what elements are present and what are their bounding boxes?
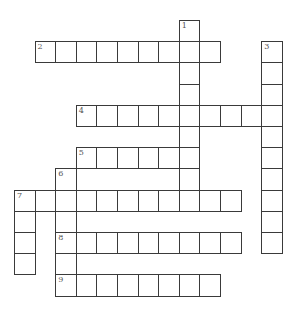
crossword-cell[interactable] [179, 41, 201, 63]
crossword-cell[interactable] [261, 147, 283, 169]
clue-number: 8 [58, 233, 63, 243]
crossword-cell[interactable] [138, 190, 160, 212]
crossword-cell[interactable] [76, 41, 98, 63]
crossword-cell[interactable]: 4 [76, 105, 98, 127]
crossword-cell[interactable] [117, 105, 139, 127]
crossword-cell[interactable] [117, 190, 139, 212]
crossword-cell[interactable] [220, 190, 242, 212]
crossword-cell[interactable] [199, 190, 221, 212]
crossword-cell[interactable] [14, 253, 36, 275]
crossword-cell[interactable] [76, 232, 98, 254]
crossword-cell[interactable] [179, 105, 201, 127]
crossword-cell[interactable] [179, 274, 201, 296]
crossword-cell[interactable]: 3 [261, 41, 283, 63]
crossword-cell[interactable]: 5 [76, 147, 98, 169]
crossword-cell[interactable] [55, 41, 77, 63]
crossword-cell[interactable] [261, 126, 283, 148]
crossword-cell[interactable] [261, 168, 283, 190]
clue-number: 7 [17, 191, 22, 201]
crossword-cell[interactable] [117, 41, 139, 63]
crossword-cell[interactable] [96, 147, 118, 169]
crossword-cell[interactable] [96, 105, 118, 127]
crossword-cell[interactable] [96, 232, 118, 254]
crossword-cell[interactable] [179, 232, 201, 254]
crossword-cell[interactable] [179, 126, 201, 148]
crossword-cell[interactable] [55, 211, 77, 233]
crossword-cell[interactable] [261, 105, 283, 127]
crossword-cell[interactable]: 6 [55, 168, 77, 190]
crossword-cell[interactable] [158, 232, 180, 254]
crossword-cell[interactable] [117, 232, 139, 254]
crossword-cell[interactable] [117, 147, 139, 169]
crossword-cell[interactable] [199, 105, 221, 127]
crossword-cell[interactable] [138, 274, 160, 296]
crossword-cell[interactable] [117, 274, 139, 296]
crossword-cell[interactable]: 2 [35, 41, 57, 63]
clue-number: 5 [79, 148, 84, 158]
crossword-cell[interactable] [179, 190, 201, 212]
crossword-cell[interactable] [261, 62, 283, 84]
crossword-cell[interactable] [220, 105, 242, 127]
crossword-cell[interactable] [158, 105, 180, 127]
clue-number: 9 [58, 275, 63, 285]
crossword-cell[interactable]: 1 [179, 20, 201, 42]
clue-number: 6 [58, 169, 63, 179]
crossword-cell[interactable]: 9 [55, 274, 77, 296]
crossword-cell[interactable] [96, 274, 118, 296]
crossword-cell[interactable] [35, 190, 57, 212]
crossword-cell[interactable] [14, 232, 36, 254]
crossword-cell[interactable] [241, 105, 263, 127]
crossword-cell[interactable] [138, 232, 160, 254]
crossword-cell[interactable] [14, 211, 36, 233]
crossword-cell[interactable] [76, 274, 98, 296]
clue-number: 4 [79, 106, 84, 116]
crossword-cell[interactable] [76, 190, 98, 212]
clue-number: 2 [38, 42, 43, 52]
crossword-cell[interactable]: 7 [14, 190, 36, 212]
crossword-cell[interactable] [199, 232, 221, 254]
crossword-cell[interactable] [158, 41, 180, 63]
crossword-cell[interactable] [199, 274, 221, 296]
crossword-cell[interactable] [138, 41, 160, 63]
crossword-cell[interactable] [179, 147, 201, 169]
crossword-cell[interactable] [96, 41, 118, 63]
crossword-cell[interactable] [179, 168, 201, 190]
crossword-grid: 123456897 [0, 0, 297, 314]
crossword-cell[interactable] [96, 190, 118, 212]
clue-number: 1 [182, 21, 187, 31]
crossword-cell[interactable] [138, 105, 160, 127]
crossword-cell[interactable] [158, 274, 180, 296]
crossword-cell[interactable] [55, 190, 77, 212]
crossword-cell[interactable] [158, 190, 180, 212]
crossword-cell[interactable] [55, 253, 77, 275]
crossword-cell[interactable] [261, 84, 283, 106]
crossword-cell[interactable] [199, 41, 221, 63]
crossword-cell[interactable] [261, 232, 283, 254]
crossword-cell[interactable] [138, 147, 160, 169]
crossword-cell[interactable] [179, 84, 201, 106]
crossword-cell[interactable] [220, 232, 242, 254]
crossword-cell[interactable] [261, 190, 283, 212]
crossword-cell[interactable]: 8 [55, 232, 77, 254]
crossword-cell[interactable] [158, 147, 180, 169]
crossword-cell[interactable] [261, 211, 283, 233]
clue-number: 3 [264, 42, 269, 52]
crossword-cell[interactable] [179, 62, 201, 84]
